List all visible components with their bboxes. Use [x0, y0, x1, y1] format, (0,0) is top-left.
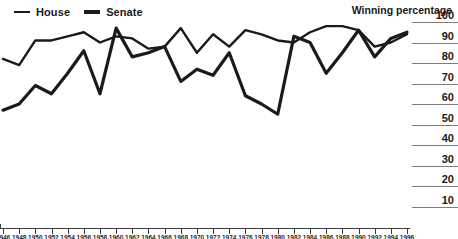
y-axis-tick-label: 10: [412, 194, 454, 206]
y-axis-tick-label: 80: [412, 50, 454, 62]
y-axis-tick-label: 60: [412, 91, 454, 103]
legend-line-senate-icon: [84, 10, 100, 14]
series-line-senate: [3, 28, 407, 114]
y-axis-tick-label: 50: [412, 112, 454, 124]
y-axis-tick-label: 30: [412, 153, 454, 165]
legend-line-house-icon: [14, 11, 30, 14]
legend-label-house: House: [36, 6, 70, 18]
plot-svg: [0, 20, 410, 230]
y-axis-scale: 102030405060708090100: [412, 20, 458, 230]
y-axis-tick: [412, 145, 458, 146]
y-axis-tick: [412, 186, 458, 187]
legend-item-house: House: [14, 6, 70, 18]
y-axis-tick: [412, 84, 458, 85]
y-axis-tick-label: 70: [412, 71, 454, 83]
y-axis-tick: [412, 166, 458, 167]
plot-area: [0, 20, 410, 230]
legend-item-senate: Senate: [84, 6, 143, 18]
x-axis: 1946194819501952195419561958196019621964…: [0, 228, 410, 239]
y-axis-tick: [412, 43, 458, 44]
y-axis-tick: [412, 207, 458, 208]
y-axis-tick-label: 90: [412, 30, 454, 42]
legend-label-senate: Senate: [106, 6, 143, 18]
y-axis-tick: [412, 104, 458, 105]
y-axis-tick-label: 20: [412, 173, 454, 185]
y-axis-tick: [412, 22, 458, 23]
x-axis-line: [0, 228, 410, 229]
chart-legend: House Senate: [14, 4, 143, 20]
winning-percentage-chart: House Senate Winning percentage 10203040…: [0, 0, 458, 239]
x-axis-left-cap: [0, 224, 1, 229]
y-axis-tick-label: 100: [412, 9, 454, 21]
x-axis-tick-label: 1996: [392, 234, 422, 239]
y-axis-tick: [412, 63, 458, 64]
y-axis-tick-label: 40: [412, 132, 454, 144]
y-axis-tick: [412, 125, 458, 126]
